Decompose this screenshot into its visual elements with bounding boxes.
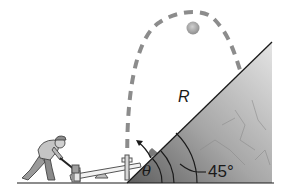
person-icon bbox=[22, 136, 79, 180]
theta-label: θ bbox=[142, 164, 151, 179]
range-label: R bbox=[178, 89, 190, 105]
ball-icon bbox=[187, 22, 200, 35]
seesaw-icon bbox=[70, 155, 141, 182]
projectile-diagram: R θ 45° bbox=[0, 0, 296, 194]
incline-angle-label: 45° bbox=[208, 163, 234, 180]
